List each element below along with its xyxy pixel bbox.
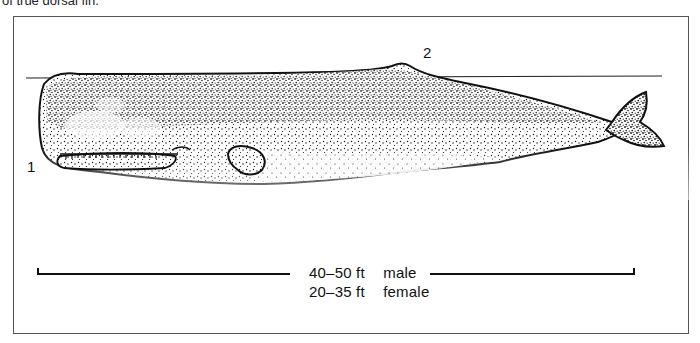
callout-2: 2 xyxy=(423,44,431,61)
callout-1: 1 xyxy=(27,158,35,175)
male-label: male xyxy=(383,264,416,281)
lower-jaw xyxy=(57,153,175,170)
female-length-range: 20–35 ft xyxy=(309,283,365,300)
female-label: female xyxy=(383,283,429,300)
male-length: 40–50 ft male xyxy=(309,264,417,281)
female-length: 20–35 ft female xyxy=(309,283,429,300)
male-length-range: 40–50 ft xyxy=(309,264,365,281)
